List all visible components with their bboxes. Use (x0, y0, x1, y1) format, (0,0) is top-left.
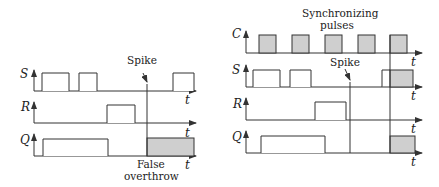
left-r-label: R (20, 100, 30, 114)
right-title-line2: pulses (320, 19, 354, 31)
right-c-pulse-3 (325, 35, 342, 53)
left-signal-q: Q t (20, 133, 196, 172)
right-s-pulse-1 (253, 70, 280, 87)
left-false-label-1: False (137, 158, 165, 170)
right-spike-label: Spike (330, 56, 360, 68)
right-c-pulse-1 (259, 35, 276, 53)
left-s-t-label: t (185, 93, 190, 107)
left-s-pulse-1 (42, 73, 69, 91)
left-q-t-label: t (185, 158, 190, 172)
left-diagram: S t R t Q t Spike False (20, 54, 196, 182)
right-c-pulse-2 (292, 35, 309, 53)
left-s-pulse-3 (173, 73, 194, 91)
right-c-label: C (232, 27, 241, 41)
right-s-label: S (232, 63, 240, 77)
left-s-pulse-2 (79, 73, 97, 91)
right-signal-s: S t (232, 63, 422, 103)
timing-diagrams: S t R t Q t Spike False (0, 0, 439, 187)
right-q-shaded-pulse (390, 136, 415, 153)
right-title-line1: Synchronizing (302, 7, 379, 19)
right-q-t-label: t (411, 155, 416, 169)
right-r-label: R (232, 97, 242, 111)
left-q-pulse (43, 139, 108, 156)
left-q-false-pulse (147, 138, 194, 156)
right-r-pulse (315, 102, 346, 120)
right-signal-c: C t (232, 27, 422, 69)
left-q-label: Q (20, 133, 30, 147)
right-s-pulse-2 (290, 70, 311, 87)
right-diagram: Synchronizing pulses C t S t R (232, 7, 422, 169)
right-c-pulse-5 (390, 35, 407, 53)
right-c-pulse-4 (358, 35, 375, 53)
right-signal-r: R t (232, 97, 422, 136)
left-signal-r: R t (20, 100, 196, 140)
left-r-pulse (107, 105, 135, 123)
right-spike-arrow (345, 69, 350, 80)
left-spike-label: Spike (127, 54, 157, 66)
right-s-t-label: t (411, 89, 416, 103)
right-r-t-label: t (411, 122, 416, 136)
right-signal-q: Q t (232, 130, 422, 169)
left-signal-s: S t (20, 67, 196, 107)
left-s-label: S (20, 67, 28, 81)
right-s-pulse-3-edge (382, 70, 390, 87)
right-q-pulse (261, 136, 325, 153)
right-s-pulse-3-shaded (390, 70, 413, 87)
right-c-t-label: t (411, 55, 416, 69)
left-false-label-2: overthrow (124, 170, 179, 182)
right-q-label: Q (232, 130, 242, 144)
left-spike-arrow (143, 73, 147, 82)
